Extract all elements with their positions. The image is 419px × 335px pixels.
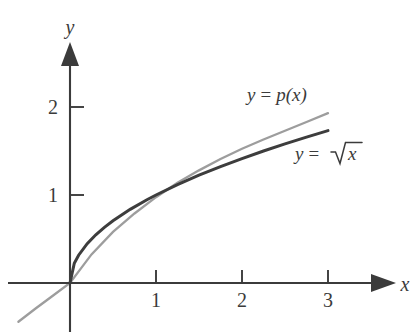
sqrt-curve-label: y= x	[293, 143, 362, 165]
math-figure: 1 2 3 1 2 y x y=p(x) y= x	[0, 0, 419, 335]
x-axis-label: x	[400, 273, 410, 295]
x-axis-arrowhead	[371, 274, 396, 292]
svg-text:y=: y=	[293, 143, 319, 164]
p-label-rhs: p(x)	[274, 84, 307, 106]
y-tick-label-1: 1	[48, 184, 58, 206]
p-label-eq: =	[260, 84, 271, 105]
x-tick-label-1: 1	[151, 289, 161, 311]
p-curve-label: y=p(x)	[245, 84, 307, 106]
y-tick-label-2: 2	[48, 96, 58, 118]
x-tick-label-3: 3	[323, 289, 333, 311]
curve-sqrt-x	[70, 131, 328, 283]
sqrt-label-eq: =	[308, 143, 319, 164]
p-label-y: y	[245, 84, 256, 105]
svg-text:y=p(x): y=p(x)	[245, 84, 307, 106]
radical-icon	[331, 143, 362, 164]
sqrt-label-y: y	[293, 143, 304, 164]
y-axis-label: y	[64, 16, 75, 39]
sqrt-label-radicand: x	[347, 143, 357, 164]
y-axis-arrowhead	[61, 42, 79, 66]
x-tick-label-2: 2	[237, 289, 247, 311]
